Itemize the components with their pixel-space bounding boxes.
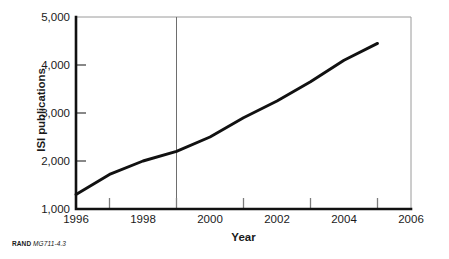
plot-area	[0, 0, 449, 259]
axis-lines	[76, 17, 411, 209]
data-line-isi-publications	[76, 43, 378, 194]
source-caption: RAND MG711-4.3	[12, 240, 66, 247]
figure-number: MG711-4.3	[33, 240, 66, 247]
plot-frame	[76, 17, 411, 209]
figure-container: ISI publications Year 1,0002,0003,0004,0…	[0, 0, 449, 259]
rand-logotype: RAND	[12, 240, 31, 247]
